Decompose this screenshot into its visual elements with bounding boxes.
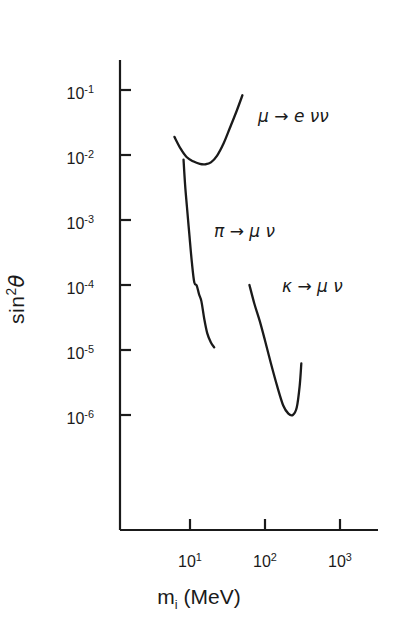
data-curves <box>174 95 301 415</box>
curve-kappa-mu-nu <box>249 285 301 415</box>
plot-area <box>0 0 398 636</box>
curve-pi-mu-nu <box>184 160 215 348</box>
curve-mu-e-nu-nu <box>174 95 242 164</box>
figure-root: sin2θ mi (MeV) 10-1 10-2 10-3 10-4 10-5 … <box>0 0 398 636</box>
x-axis-ticks <box>190 519 340 530</box>
y-axis-ticks <box>120 90 131 415</box>
